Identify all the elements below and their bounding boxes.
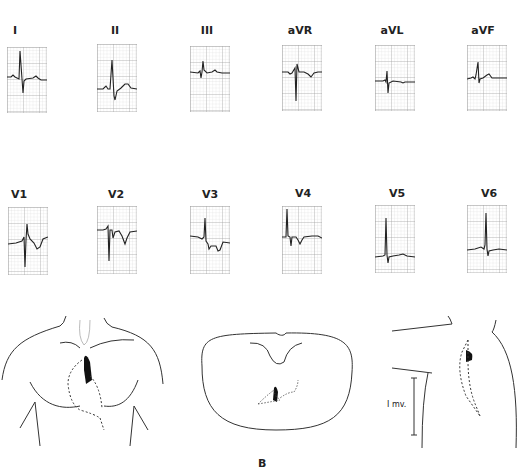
lead-label-aVL: aVL bbox=[367, 24, 417, 37]
lead-label-III: III bbox=[182, 24, 232, 37]
calibration-label: I mv. bbox=[387, 400, 406, 409]
chest-lateral-drawing bbox=[370, 300, 527, 476]
ecg-strip-V5 bbox=[375, 205, 415, 273]
ecg-strip-aVL bbox=[375, 45, 415, 111]
lead-label-aVR: aVR bbox=[275, 24, 325, 37]
chest-frontal-drawing bbox=[0, 300, 180, 476]
ecg-strip-V1 bbox=[8, 207, 48, 275]
lead-label-aVF: aVF bbox=[458, 24, 508, 37]
lead-label-I: I bbox=[0, 24, 40, 37]
lead-label-V4: V4 bbox=[278, 187, 328, 200]
chest-transverse-drawing bbox=[180, 300, 380, 476]
panel-label: B bbox=[258, 457, 266, 470]
ecg-strip-aVF bbox=[467, 45, 507, 111]
ecg-strip-V6 bbox=[467, 205, 507, 273]
ecg-strip-III bbox=[190, 46, 230, 112]
ecg-strip-aVR bbox=[282, 45, 322, 111]
ecg-strip-V3 bbox=[190, 206, 230, 274]
lead-label-V1: V1 bbox=[0, 188, 44, 201]
lead-label-V3: V3 bbox=[185, 188, 235, 201]
ecg-strip-I bbox=[7, 47, 47, 113]
ecg-strip-V2 bbox=[97, 206, 137, 274]
lead-label-II: II bbox=[90, 24, 140, 37]
lead-label-V6: V6 bbox=[464, 187, 514, 200]
ecg-strip-II bbox=[97, 44, 137, 112]
lead-label-V5: V5 bbox=[372, 187, 422, 200]
ecg-strip-V4 bbox=[282, 206, 322, 274]
lead-label-V2: V2 bbox=[91, 188, 141, 201]
